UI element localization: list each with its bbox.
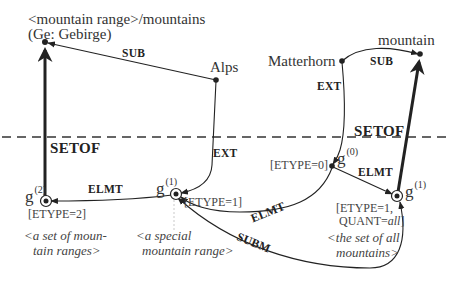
node-g0 (329, 163, 335, 169)
g2-gloss-1: <a set of moun- (24, 229, 107, 242)
edge-label-elmt-right: ELMT (358, 167, 393, 179)
alps-label: Alps (210, 60, 238, 75)
g1-right-symbol: g(1) (405, 183, 426, 200)
mountain-range-gloss: (Ge: Gebirge) (28, 27, 111, 42)
mountain-label: mountain (378, 33, 435, 48)
edge-label-ext-right: EXT (317, 81, 342, 93)
node-alps (213, 77, 219, 83)
g1-mid-symbol: g(1) (156, 180, 177, 197)
g1-right-gloss-2: mountains> (336, 246, 399, 259)
edge-label-ext-left: EXT (213, 148, 238, 160)
g1-mid-gloss-2: mountain range> (142, 244, 233, 257)
g1-mid-gloss-1: <a special (136, 229, 191, 242)
g0-symbol: g(0) (337, 150, 358, 167)
edge-label-elmt-left: ELMT (88, 184, 123, 196)
g0-attr: [ETYPE=0] (270, 159, 328, 171)
edge-elmt-left (51, 195, 172, 201)
g1-mid-attr: [ETYPE=1] (184, 196, 242, 208)
g1-right-gloss-1: <the set of all (327, 231, 400, 244)
edge-label-sub-left: SUB (122, 48, 145, 60)
matterhorn-label: Matterhorn (268, 54, 335, 69)
g2-attr: [ETYPE=2] (28, 208, 86, 220)
node-mountain (417, 51, 423, 57)
edge-label-elmt-mid: ELMT (249, 199, 287, 225)
edge-label-setof-right: SETOF (354, 124, 404, 139)
g2-gloss-2: tain ranges> (33, 244, 101, 257)
edge-label-sub-right: SUB (370, 56, 393, 68)
mountain-range-label: <mountain range>/mountains (28, 12, 205, 27)
g1-right-attr-2: QUANT=all] (339, 215, 404, 227)
g1-right-attr-1: [ETYPE=1, (336, 202, 393, 214)
edge-label-subm: SUBM (235, 230, 272, 256)
edge-label-setof-left: SETOF (50, 141, 100, 156)
node-matterhorn (339, 58, 345, 64)
g2-symbol: g(2) (25, 188, 46, 205)
node-g1-right (392, 191, 403, 202)
